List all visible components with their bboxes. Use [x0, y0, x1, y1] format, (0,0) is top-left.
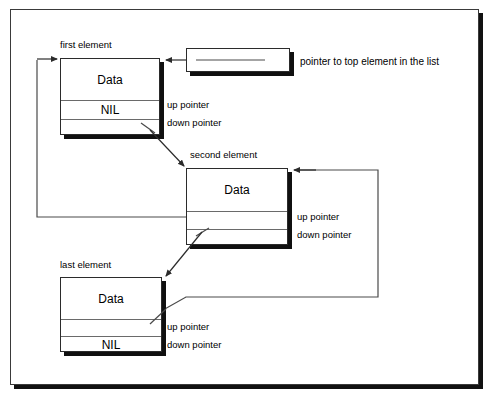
caption-second-element: second element	[190, 150, 257, 161]
second-node-down-pointer-cell	[187, 229, 287, 246]
last-node-down-pointer-cell: NIL	[61, 336, 161, 353]
last-node-data-cell: Data	[61, 278, 161, 319]
first-node-down-pointer-annotation: down pointer	[167, 118, 221, 129]
diagram-canvas: first element Data NIL up pointer down p…	[0, 0, 491, 403]
last-node-shadow-right	[162, 281, 166, 356]
second-node-down-pointer-annotation: down pointer	[297, 230, 351, 241]
second-node-data-label: Data	[224, 184, 249, 196]
second-node-data-cell: Data	[187, 169, 287, 211]
node-last-element: Data NIL	[60, 277, 162, 352]
last-node-down-pointer-annotation: down pointer	[167, 340, 221, 351]
last-node-up-pointer-annotation: up pointer	[167, 322, 209, 333]
first-node-up-pointer-label: NIL	[101, 104, 120, 116]
top-pointer-caption: pointer to top element in the list	[300, 56, 439, 68]
top-pointer-box-shadow-right	[290, 52, 294, 76]
second-node-up-pointer-annotation: up pointer	[297, 212, 339, 223]
first-node-data-cell: Data	[61, 59, 159, 100]
first-node-data-label: Data	[97, 74, 122, 86]
last-node-up-pointer-cell	[61, 319, 161, 336]
top-pointer-box	[186, 48, 290, 72]
second-node-up-pointer-cell	[187, 211, 287, 229]
first-node-shadow-right	[160, 62, 164, 139]
last-node-data-label: Data	[98, 293, 123, 305]
first-node-up-pointer-cell: NIL	[61, 100, 159, 119]
node-first-element: Data NIL	[60, 58, 160, 135]
caption-first-element: first element	[60, 40, 112, 51]
frame-shadow-bottom	[14, 385, 483, 389]
node-second-element: Data	[186, 168, 288, 245]
first-node-up-pointer-annotation: up pointer	[167, 100, 209, 111]
top-pointer-box-shadow-bottom	[190, 72, 290, 76]
frame-shadow-right	[479, 13, 483, 389]
last-node-down-pointer-label: NIL	[102, 339, 121, 351]
second-node-shadow-right	[288, 172, 292, 249]
caption-last-element: last element	[60, 260, 111, 271]
first-node-down-pointer-cell	[61, 119, 159, 136]
